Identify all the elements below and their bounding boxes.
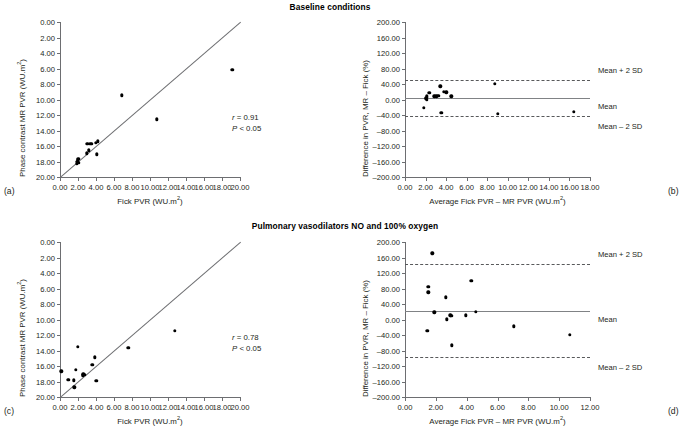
y-axis-title-text: Phase contrast MR PVR (WU.m	[18, 65, 27, 177]
y-axis-title-sup: 2	[16, 62, 22, 65]
y-tick-0-2	[57, 53, 60, 54]
figure-root: Baseline conditions(a)0.002.004.006.008.…	[0, 0, 690, 441]
x-tick-2-9	[222, 398, 223, 401]
x-tick-label: 12.00	[158, 183, 177, 192]
y-axis-1	[405, 22, 406, 178]
x-axis-title: Fick PVR (WU.m2)	[117, 415, 182, 426]
x-tick-3-0	[405, 398, 406, 401]
x-tick-0-9	[222, 178, 223, 181]
stat-pvalue-value: < 0.05	[239, 344, 261, 353]
y-tick-label: 12.00	[22, 331, 55, 340]
y-tick-2-6	[57, 335, 60, 336]
upper-sd-label: Mean + 2 SD	[598, 250, 643, 259]
x-tick-label: 0.00	[398, 183, 413, 192]
x-tick-label: 4.00	[439, 183, 454, 192]
x-axis-title-text: Average Fick PVR – MR PVR (WU.m	[429, 417, 560, 426]
y-tick-1-9	[402, 162, 405, 163]
x-tick-label: 6.00	[459, 183, 474, 192]
x-tick-label: 4.00	[89, 403, 104, 412]
y-tick-label: 120.00	[367, 269, 400, 278]
y-tick-label: 10.00	[22, 95, 55, 104]
y-tick-label: –80.00	[367, 126, 400, 135]
y-tick-3-1	[402, 258, 405, 259]
lower-sd-label: Mean – 2 SD	[598, 363, 642, 372]
x-tick-0-7	[186, 178, 187, 181]
x-tick-label: 10.00	[498, 183, 517, 192]
x-tick-label: 10.00	[140, 183, 159, 192]
y-tick-2-1	[57, 258, 60, 259]
x-tick-label: 2.00	[418, 183, 433, 192]
x-tick-3-1	[436, 398, 437, 401]
x-tick-0-6	[168, 178, 169, 181]
x-tick-1-7	[549, 178, 550, 181]
mean-label: Mean	[598, 315, 617, 324]
y-axis-title: Difference in PVR, MR – Fick (%)	[361, 280, 370, 397]
y-tick-label: –40.00	[367, 331, 400, 340]
y-tick-1-4	[402, 84, 405, 85]
y-tick-1-1	[402, 38, 405, 39]
x-tick-2-5	[150, 398, 151, 401]
y-tick-label: 18.00	[22, 377, 55, 386]
x-tick-label: 8.00	[521, 403, 536, 412]
y-tick-3-8	[402, 366, 405, 367]
x-tick-0-1	[78, 178, 79, 181]
x-axis-title-text: Average Fick PVR – MR PVR (WU.m	[429, 197, 560, 206]
stat-correlation: r = 0.91	[232, 112, 261, 123]
y-tick-label: 200.00	[367, 18, 400, 27]
x-tick-0-2	[96, 178, 97, 181]
x-tick-2-2	[96, 398, 97, 401]
y-tick-label: 20.00	[22, 173, 55, 182]
x-tick-label: 10.00	[550, 403, 569, 412]
x-tick-label: 14.00	[539, 183, 558, 192]
y-tick-label: 80.00	[367, 64, 400, 73]
x-tick-label: 8.00	[480, 183, 495, 192]
y-tick-label: 6.00	[22, 64, 55, 73]
x-tick-label: 4.00	[89, 183, 104, 192]
y-tick-label: 10.00	[22, 315, 55, 324]
stat-pvalue: P < 0.05	[232, 343, 261, 354]
panel-letter-d: (d)	[668, 406, 679, 416]
x-axis-1	[405, 177, 591, 178]
y-tick-label: –80.00	[367, 346, 400, 355]
stat-correlation-value: = 0.78	[237, 333, 259, 342]
x-tick-label: 6.00	[107, 403, 122, 412]
y-tick-label: –120.00	[367, 362, 400, 371]
x-tick-label: 16.00	[560, 183, 579, 192]
plot-area-1	[405, 22, 590, 177]
y-tick-2-2	[57, 273, 60, 274]
x-axis-title-tail: )	[563, 197, 566, 206]
x-tick-label: 18.00	[212, 403, 231, 412]
panel-title: Pulmonary vasodilators NO and 100% oxyge…	[252, 221, 439, 231]
x-tick-0-4	[132, 178, 133, 181]
x-tick-label: 16.00	[194, 183, 213, 192]
y-tick-2-9	[57, 382, 60, 383]
y-axis-title-text: Difference in PVR, MR – Fick (%)	[361, 60, 370, 177]
upper-sd-line	[405, 264, 590, 265]
x-tick-label: 14.00	[176, 183, 195, 192]
y-tick-0-4	[57, 84, 60, 85]
x-tick-label: 6.00	[107, 183, 122, 192]
y-axis-title-text: Difference in PVR, MR – Fick (%)	[361, 280, 370, 397]
y-axis-title-tail: )	[18, 279, 27, 282]
x-axis-title-tail: )	[180, 197, 183, 206]
y-tick-label: –120.00	[367, 142, 400, 151]
x-tick-3-5	[559, 398, 560, 401]
y-tick-1-2	[402, 53, 405, 54]
panel-letter-a: (a)	[4, 186, 15, 196]
y-tick-0-6	[57, 115, 60, 116]
y-tick-label: 40.00	[367, 80, 400, 89]
x-tick-3-6	[590, 398, 591, 401]
x-tick-1-6	[528, 178, 529, 181]
x-axis-title: Average Fick PVR – MR PVR (WU.m2)	[429, 195, 565, 206]
x-tick-1-3	[467, 178, 468, 181]
x-tick-label: 12.00	[580, 403, 599, 412]
upper-sd-line	[405, 80, 590, 81]
mean-label: Mean	[598, 102, 617, 111]
x-tick-label: 18.00	[212, 183, 231, 192]
stats-annotation: r = 0.91P < 0.05	[232, 112, 261, 134]
y-tick-label: 2.00	[22, 33, 55, 42]
x-tick-1-1	[426, 178, 427, 181]
x-tick-label: 2.00	[71, 403, 86, 412]
x-tick-0-10	[240, 178, 241, 181]
x-tick-label: 20.00	[230, 183, 249, 192]
